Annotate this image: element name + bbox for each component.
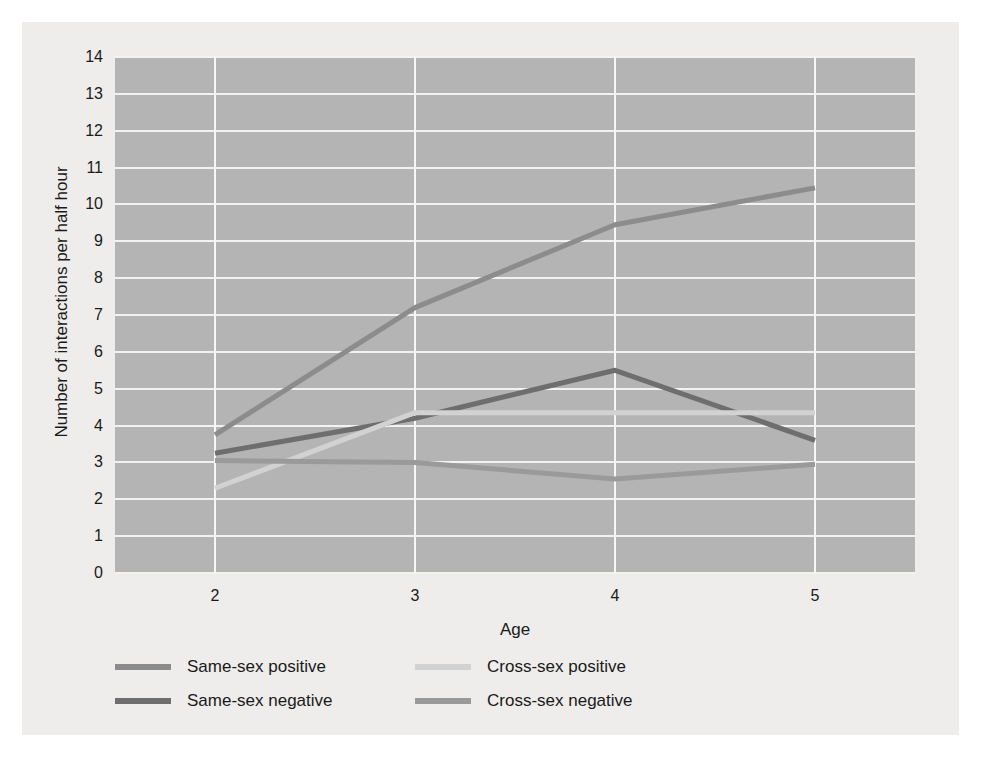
y-tick-label: 7 [43, 306, 103, 324]
y-tick-label: 11 [43, 159, 103, 177]
x-tick-label: 5 [785, 587, 845, 605]
legend-item-same-sex-negative[interactable]: Same-sex negative [115, 691, 415, 711]
y-tick-label: 13 [43, 85, 103, 103]
y-tick-label: 2 [43, 490, 103, 508]
legend-item-cross-sex-negative[interactable]: Cross-sex negative [415, 691, 633, 711]
chart-figure: Number of interactions per half hour Age… [22, 22, 959, 735]
chart-legend: Same-sex positive Cross-sex positive Sam… [115, 650, 735, 718]
series-line-cross-sex-positive [215, 413, 815, 489]
series-lines [115, 57, 915, 573]
legend-label-cross-sex-positive: Cross-sex positive [487, 657, 626, 677]
y-tick-label: 9 [43, 232, 103, 250]
x-tick-label: 3 [385, 587, 445, 605]
legend-swatch-cross-sex-negative [415, 698, 471, 704]
y-tick-label: 12 [43, 122, 103, 140]
y-tick-label: 1 [43, 527, 103, 545]
plot-area: 01234567891011121314 2345 [115, 57, 915, 573]
legend-swatch-same-sex-negative [115, 698, 171, 704]
series-line-same-sex-positive [215, 188, 815, 435]
y-tick-label: 3 [43, 453, 103, 471]
legend-row: Same-sex negative Cross-sex negative [115, 684, 735, 718]
y-tick-label: 5 [43, 380, 103, 398]
y-tick-label: 10 [43, 195, 103, 213]
y-tick-label: 0 [43, 564, 103, 582]
legend-row: Same-sex positive Cross-sex positive [115, 650, 735, 684]
y-tick-label: 4 [43, 417, 103, 435]
legend-label-cross-sex-negative: Cross-sex negative [487, 691, 633, 711]
legend-swatch-same-sex-positive [115, 664, 171, 670]
series-line-cross-sex-negative [215, 461, 815, 479]
x-tick-label: 4 [585, 587, 645, 605]
y-tick-label: 14 [43, 48, 103, 66]
x-axis-title: Age [115, 620, 915, 640]
legend-label-same-sex-negative: Same-sex negative [187, 691, 333, 711]
legend-swatch-cross-sex-positive [415, 664, 471, 670]
legend-item-same-sex-positive[interactable]: Same-sex positive [115, 657, 415, 677]
y-tick-label: 8 [43, 269, 103, 287]
y-tick-label: 6 [43, 343, 103, 361]
legend-label-same-sex-positive: Same-sex positive [187, 657, 326, 677]
legend-item-cross-sex-positive[interactable]: Cross-sex positive [415, 657, 626, 677]
x-tick-label: 2 [185, 587, 245, 605]
